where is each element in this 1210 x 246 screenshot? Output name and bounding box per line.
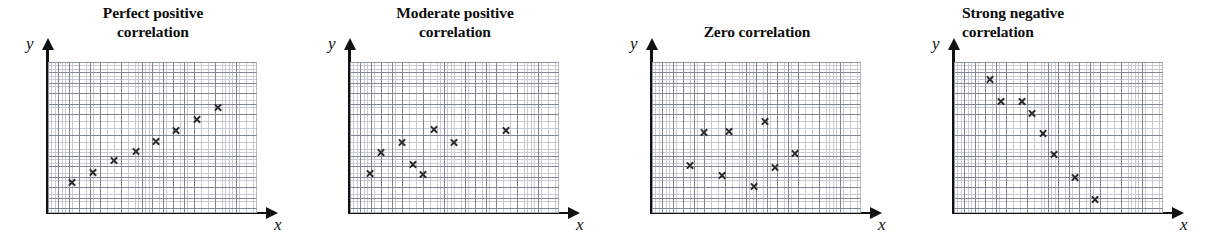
panel-moderate-positive-correlation: Moderate positive correlation y x (302, 0, 604, 246)
x-axis-label: x (576, 215, 584, 235)
data-point-marker (700, 128, 709, 137)
x-axis-label: x (274, 215, 282, 235)
y-axis-label: y (932, 34, 940, 54)
data-point-marker (398, 138, 407, 147)
data-point-marker (88, 168, 97, 177)
data-point-marker (1028, 109, 1037, 118)
data-point-marker (986, 75, 995, 84)
data-point-marker (214, 103, 223, 112)
x-axis-label: x (1180, 215, 1188, 235)
y-axis-label: y (328, 34, 336, 54)
correlation-scatter-figure: Perfect positive correlation y x Moderat… (0, 0, 1210, 246)
y-axis-arrowhead (646, 38, 658, 50)
data-point-marker (172, 126, 181, 135)
y-axis-arrowhead (344, 38, 356, 50)
y-axis-arrowhead (42, 38, 54, 50)
data-point-marker (725, 127, 734, 136)
panel-title: Perfect positive correlation (48, 3, 258, 41)
data-point-marker (1017, 97, 1026, 106)
panel-title: Strong negative correlation (962, 3, 1172, 41)
panel-strong-negative-correlation: Strong negative correlation y x (906, 0, 1208, 246)
data-point-marker (1091, 195, 1100, 204)
panel-title: Zero correlation (652, 22, 862, 41)
data-point-marker (718, 171, 727, 180)
data-point-marker (377, 148, 386, 157)
data-point-marker (760, 117, 769, 126)
panel-zero-correlation: Zero correlation y x (604, 0, 906, 246)
data-point-marker (501, 126, 510, 135)
data-point-marker (151, 137, 160, 146)
y-axis-arrowhead (948, 38, 960, 50)
plot-area (954, 62, 1163, 213)
data-point-marker (419, 170, 428, 179)
plot-area (48, 62, 257, 213)
plot-area (350, 62, 559, 213)
data-point-marker (131, 147, 140, 156)
data-point-marker (68, 178, 77, 187)
data-point-marker (365, 169, 374, 178)
data-point-marker (429, 125, 438, 134)
data-point-marker (1050, 150, 1059, 159)
data-point-marker (1038, 129, 1047, 138)
data-point-marker (1071, 173, 1080, 182)
panel-perfect-positive-correlation: Perfect positive correlation y x (0, 0, 302, 246)
data-point-marker (193, 115, 202, 124)
plot-area (652, 62, 861, 213)
data-point-marker (771, 163, 780, 172)
data-point-marker (997, 97, 1006, 106)
y-axis-label: y (630, 34, 638, 54)
y-axis-label: y (26, 34, 34, 54)
data-point-marker (685, 161, 694, 170)
panel-title: Moderate positive correlation (350, 3, 560, 41)
data-point-marker (791, 149, 800, 158)
data-point-marker (750, 182, 759, 191)
data-point-marker (450, 138, 459, 147)
x-axis-label: x (878, 215, 886, 235)
data-point-marker (408, 160, 417, 169)
data-point-marker (109, 156, 118, 165)
